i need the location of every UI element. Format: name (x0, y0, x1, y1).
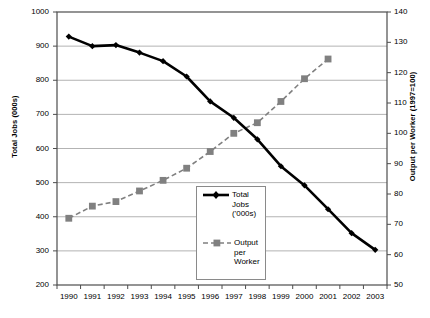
y-axis-right-tick-80: 80 (394, 189, 424, 198)
y-axis-left-tick-400: 400 (19, 212, 49, 221)
y-axis-right-tick-120: 120 (394, 68, 424, 77)
y-axis-left-tick-800: 800 (19, 75, 49, 84)
legend-label-output-per-worker: Output per Worker (234, 238, 260, 267)
y-axis-right-tick-50: 50 (394, 280, 424, 289)
chart-container: Total Jobs (000s) Output per Worker (199… (0, 0, 430, 318)
y-axis-right-tick-110: 110 (394, 98, 424, 107)
y-axis-left-tick-1000: 1000 (19, 7, 49, 16)
x-axis-tick-2003: 2003 (355, 292, 395, 301)
y-axis-left-tick-200: 200 (19, 280, 49, 289)
y-axis-right-tick-70: 70 (394, 219, 424, 228)
y-axis-left-tick-900: 900 (19, 41, 49, 50)
y-axis-left-tick-600: 600 (19, 144, 49, 153)
legend-label-total-jobs: Total Jobs ('000s) (232, 190, 256, 219)
y-axis-left-tick-500: 500 (19, 178, 49, 187)
y-axis-right-tick-100: 100 (394, 128, 424, 137)
y-axis-right-tick-140: 140 (394, 7, 424, 16)
y-axis-right-tick-60: 60 (394, 250, 424, 259)
y-axis-right-tick-130: 130 (394, 37, 424, 46)
y-axis-right-tick-90: 90 (394, 159, 424, 168)
y-axis-left-tick-300: 300 (19, 246, 49, 255)
y-axis-left-tick-700: 700 (19, 109, 49, 118)
